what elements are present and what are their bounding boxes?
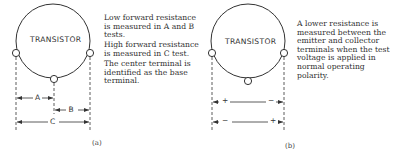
- polarity-row2-right: +: [270, 116, 276, 125]
- measure-label-c: C: [50, 117, 55, 126]
- note-b-1: A lower resistance is measured between t…: [297, 20, 397, 80]
- terminal-base-b: [244, 77, 251, 84]
- terminal-left-b: [208, 49, 215, 56]
- terminal-base-a: [50, 75, 57, 82]
- caption-a: (a): [92, 139, 102, 147]
- polarity-row1-right: −: [268, 96, 274, 105]
- polarity-row2-left: −: [222, 116, 228, 125]
- caption-b: (b): [285, 142, 295, 150]
- note-a-3: The center terminal is identified as the…: [104, 60, 200, 86]
- polarity-row1-left: +: [222, 96, 228, 105]
- notes-b: A lower resistance is measured between t…: [297, 20, 397, 82]
- component-label-b: TRANSISTOR: [225, 37, 276, 46]
- panel-b-drawing: [208, 4, 287, 130]
- terminal-right-a: [86, 49, 93, 56]
- measure-label-b: B: [69, 105, 74, 114]
- terminal-left-a: [12, 49, 19, 56]
- note-a-2: High forward resistance is measured in C…: [104, 41, 200, 58]
- measure-label-a: A: [35, 93, 40, 102]
- notes-a: Low forward resistance is measured in A …: [104, 14, 200, 88]
- note-a-1: Low forward resistance is measured in A …: [104, 14, 200, 40]
- terminal-right-b: [280, 49, 287, 56]
- component-label-a: TRANSISTOR: [30, 35, 81, 44]
- panel-a-drawing: [12, 4, 93, 130]
